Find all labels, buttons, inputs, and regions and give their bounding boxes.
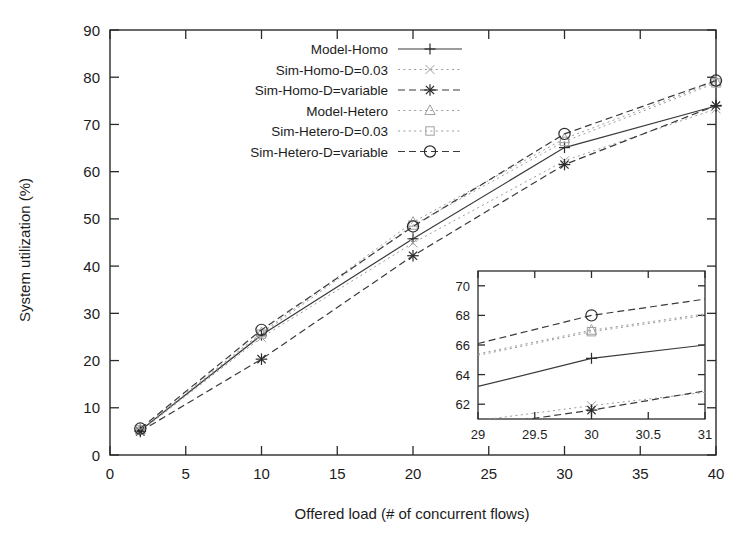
legend-label: Sim-Homo-D=0.03 — [276, 63, 388, 78]
inset-y-tick-label: 64 — [456, 368, 470, 383]
y-tick-label: 50 — [83, 210, 100, 227]
inset-x-tick-label: 31 — [698, 427, 712, 442]
y-tick-label: 80 — [83, 69, 100, 86]
chart-figure: 0102030405060708090 0510152025303540 Mod… — [0, 0, 753, 554]
x-tick-label: 5 — [182, 465, 190, 482]
y-tick-label: 60 — [83, 163, 100, 180]
inset-x-tick-label: 29 — [471, 427, 485, 442]
inset-x-tick-label: 30 — [584, 427, 598, 442]
x-tick-label: 40 — [708, 465, 725, 482]
x-tick-label: 20 — [405, 465, 422, 482]
y-tick-label: 30 — [83, 305, 100, 322]
inset-y-tick-label: 66 — [456, 338, 470, 353]
y-tick-label: 70 — [83, 116, 100, 133]
legend-label: Model-Homo — [311, 42, 388, 57]
x-tick-label: 15 — [329, 465, 346, 482]
x-tick-label: 30 — [556, 465, 573, 482]
line-chart: 0102030405060708090 0510152025303540 Mod… — [0, 0, 753, 554]
legend-label: Sim-Hetero-D=variable — [250, 145, 388, 160]
y-tick-label: 20 — [83, 352, 100, 369]
x-tick-label: 10 — [253, 465, 270, 482]
x-tick-label: 35 — [632, 465, 649, 482]
legend-label: Sim-Homo-D=variable — [255, 83, 388, 98]
inset-x-tick-label: 30.5 — [636, 427, 661, 442]
inset-plot: 62646668702929.53030.531 — [456, 271, 713, 442]
x-tick-label: 0 — [106, 465, 114, 482]
legend-label: Sim-Hetero-D=0.03 — [271, 124, 388, 139]
inset-y-tick-label: 68 — [456, 308, 470, 323]
y-axis-title: System utilization (%) — [16, 178, 33, 322]
y-tick-label: 10 — [83, 399, 100, 416]
legend-label: Model-Hetero — [306, 104, 388, 119]
x-tick-label: 25 — [480, 465, 497, 482]
x-axis-title: Offered load (# of concurrent flows) — [295, 505, 530, 522]
y-tick-label: 90 — [83, 22, 100, 39]
y-tick-label: 0 — [92, 447, 100, 464]
inset-x-tick-label: 29.5 — [522, 427, 547, 442]
inset-y-tick-label: 70 — [456, 279, 470, 294]
y-tick-label: 40 — [83, 258, 100, 275]
inset-y-tick-label: 62 — [456, 397, 470, 412]
